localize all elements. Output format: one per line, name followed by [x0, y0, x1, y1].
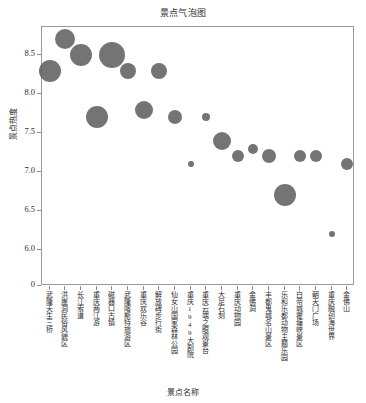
x-tick-label: 金佛洞	[248, 291, 256, 312]
y-tick-mark	[37, 171, 41, 172]
bubble-chart: 景点气泡图 景点热度 06.06.57.07.58.08.5 武隆天生三桥洪崖洞…	[0, 0, 366, 403]
y-tick-mark	[37, 210, 41, 211]
y-tick-mark	[37, 249, 41, 250]
x-tick-label: 洪崖洞民俗风貌区	[60, 291, 68, 347]
x-tick-label: 朝天门广场	[311, 291, 319, 326]
x-tick-mark	[127, 286, 128, 290]
y-tick-label: 7.5	[1, 126, 35, 136]
bubble-point	[168, 110, 182, 124]
x-tick-mark	[111, 286, 112, 290]
x-tick-label: 仙女山国家森林公园	[170, 291, 178, 354]
x-tick-mark	[284, 286, 285, 290]
x-tick-label: 重庆两江游	[92, 291, 100, 326]
x-tick-label: 重庆1949大剧院	[186, 291, 194, 358]
x-tick-mark	[80, 286, 81, 290]
x-tick-label: 重庆欢乐谷	[139, 291, 147, 326]
bubble-point	[248, 144, 258, 154]
bubble-point	[120, 63, 136, 79]
x-tick-mark	[190, 286, 191, 290]
x-tick-mark	[299, 286, 300, 290]
x-tick-label: 重庆融创海世界	[327, 291, 335, 340]
x-tick-label: 长江索道	[76, 291, 84, 319]
bubble-point	[86, 106, 108, 128]
x-tick-mark	[158, 286, 159, 290]
x-tick-mark	[252, 286, 253, 290]
bubble-point	[294, 150, 306, 162]
bubble-point	[262, 149, 276, 163]
x-tick-mark	[143, 286, 144, 290]
x-tick-mark	[237, 286, 238, 290]
x-tick-mark	[268, 286, 269, 290]
bubble-point	[70, 44, 92, 66]
x-tick-mark	[205, 286, 206, 290]
bubble-point	[135, 101, 153, 119]
x-tick-label: 白帝城瞿塘峡景区	[295, 291, 303, 347]
x-tick-label: 武隆喀斯特旅游区	[123, 291, 131, 347]
x-tick-label: 金佛山	[342, 291, 350, 312]
bubble-point	[151, 63, 167, 79]
y-tick-label: 6.0	[1, 243, 35, 253]
y-tick-label: 0	[1, 279, 35, 289]
plot-area	[41, 26, 354, 285]
y-tick-mark	[37, 132, 41, 133]
bubble-point	[188, 161, 194, 167]
bubble-point	[274, 184, 296, 206]
x-tick-label: 乐和乐都动物主题乐园	[280, 291, 288, 361]
y-tick-label: 6.5	[1, 204, 35, 214]
x-tick-mark	[315, 286, 316, 290]
x-tick-mark	[49, 286, 50, 290]
bubble-point	[232, 150, 244, 162]
y-tick-label: 8.0	[1, 87, 35, 97]
bubble-point	[213, 132, 231, 150]
bubble-point	[310, 150, 322, 162]
x-tick-mark	[346, 286, 347, 290]
x-tick-label: 重庆动物园	[233, 291, 241, 326]
x-tick-label: 武隆天生三桥	[45, 291, 53, 333]
x-axis-title: 景点名称	[0, 386, 366, 397]
bubble-series	[42, 27, 353, 284]
x-tick-mark	[331, 286, 332, 290]
y-tick-label: 8.5	[1, 48, 35, 58]
x-tick-mark	[221, 286, 222, 290]
bubble-point	[202, 113, 210, 121]
y-tick-mark	[37, 93, 41, 94]
x-tick-label: 磁器口古镇	[107, 291, 115, 326]
x-tick-label: 重庆云端之眼观景台	[201, 291, 209, 354]
y-tick-label: 7.0	[1, 165, 35, 175]
y-tick-mark	[37, 54, 41, 55]
chart-title: 景点气泡图	[0, 6, 366, 19]
x-tick-mark	[96, 286, 97, 290]
bubble-point	[329, 231, 335, 237]
bubble-point	[39, 60, 61, 82]
bubble-point	[341, 158, 353, 170]
x-tick-mark	[64, 286, 65, 290]
x-tick-mark	[174, 286, 175, 290]
x-tick-label: 解放碑步行街	[154, 291, 162, 333]
y-tick-mark	[37, 285, 41, 286]
x-tick-label: 大足石刻	[217, 291, 225, 319]
x-tick-label: 丰都鬼城名山景区	[264, 291, 272, 347]
